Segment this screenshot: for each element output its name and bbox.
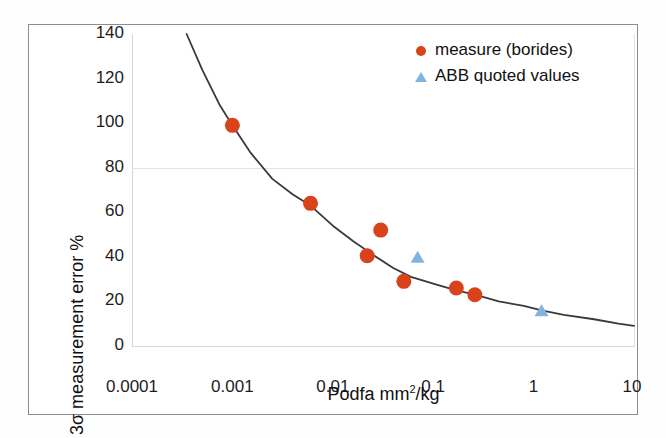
chart-legend: measure (borides) ABB quoted values bbox=[412, 37, 580, 89]
legend-label-measure-borides: measure (borides) bbox=[435, 37, 573, 63]
data-point-measure bbox=[373, 223, 388, 238]
legend-triangle-icon bbox=[412, 63, 430, 89]
data-point-measure bbox=[360, 248, 375, 263]
y-axis-title-wrap: 3σ measurement error % bbox=[75, 345, 76, 346]
figure-frame: 140 120 100 80 60 40 20 0 0.0001 0.001 0… bbox=[28, 24, 638, 415]
data-point-abb bbox=[411, 251, 425, 263]
data-point-abb bbox=[535, 304, 549, 316]
chart-figure: 140 120 100 80 60 40 20 0 0.0001 0.001 0… bbox=[0, 0, 666, 438]
data-point-measure bbox=[225, 118, 240, 133]
x-axis-title-post: /kg bbox=[416, 384, 440, 404]
legend-item-abb-quoted-values[interactable]: ABB quoted values bbox=[412, 63, 580, 89]
measure-borides-markers bbox=[225, 118, 482, 302]
legend-item-measure-borides[interactable]: measure (borides) bbox=[412, 37, 580, 63]
legend-label-abb-quoted-values: ABB quoted values bbox=[435, 63, 580, 89]
data-point-measure bbox=[449, 281, 464, 296]
x-axis-title: Podfa mm2/kg bbox=[132, 383, 635, 405]
data-point-measure bbox=[467, 287, 482, 302]
legend-circle-icon bbox=[412, 37, 430, 63]
data-point-measure bbox=[303, 196, 318, 211]
y-axis-title: 3σ measurement error % bbox=[67, 205, 88, 435]
x-axis-title-pre: Podfa mm bbox=[327, 384, 409, 404]
data-point-measure bbox=[396, 274, 411, 289]
